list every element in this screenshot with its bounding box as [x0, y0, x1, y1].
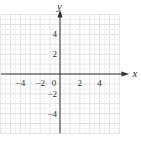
x-axis-label: x: [131, 67, 137, 79]
x-tick-label: −2: [35, 78, 45, 88]
y-tick-label: −2: [47, 89, 57, 99]
x-axis-arrow-icon: [121, 72, 129, 77]
x-tick-label: 4: [97, 78, 102, 88]
y-axis-label: y: [56, 0, 62, 12]
y-tick-label: 2: [53, 49, 58, 59]
x-tick-label: −4: [16, 78, 26, 88]
coordinate-grid: xy−4−202442−2−4: [0, 0, 141, 144]
y-tick-label: 4: [53, 29, 58, 39]
x-tick-label: 0: [52, 78, 57, 88]
x-tick-label: 2: [78, 78, 83, 88]
y-tick-label: −4: [47, 109, 57, 119]
